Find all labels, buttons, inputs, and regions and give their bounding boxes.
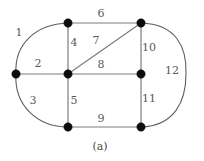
vertex-left xyxy=(12,70,20,78)
vertex-right xyxy=(137,70,145,78)
vertex-top-left xyxy=(64,19,72,27)
vertex-bottom-left xyxy=(64,123,72,131)
edge-2-label: 2 xyxy=(35,57,42,70)
edge-6-label: 6 xyxy=(98,7,105,20)
vertex-bottom-right xyxy=(137,123,145,131)
edge-7 xyxy=(68,23,141,74)
edge-7-label: 7 xyxy=(93,34,100,47)
figure-caption: (a) xyxy=(92,140,107,153)
edge-8-label: 8 xyxy=(98,58,105,71)
edge-10-label: 10 xyxy=(142,41,156,54)
edge-3-label: 3 xyxy=(30,94,37,107)
edge-12 xyxy=(141,23,186,127)
edge-5-label: 5 xyxy=(71,94,78,107)
edge-1 xyxy=(16,23,68,74)
figure-container: 123456789101112 (a) xyxy=(0,0,204,161)
edge-12-label: 12 xyxy=(165,64,179,77)
edge-4-label: 4 xyxy=(71,36,78,49)
graph-diagram: 123456789101112 (a) xyxy=(0,0,204,161)
vertex-top-right xyxy=(137,19,145,27)
edge-11-label: 11 xyxy=(142,92,156,105)
edge-1-label: 1 xyxy=(16,26,23,39)
edge-3 xyxy=(16,74,68,127)
edge-9-label: 9 xyxy=(98,112,105,125)
vertex-center xyxy=(64,70,72,78)
